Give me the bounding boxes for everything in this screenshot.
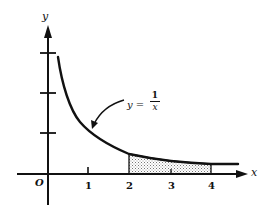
- x-axis-label: x: [251, 167, 257, 178]
- hyperbola-diagram: y x O 1 2 3 4 y = 1 x: [0, 0, 268, 214]
- x-tick-label-1: 1: [85, 181, 92, 191]
- x-tick-label-2: 2: [126, 181, 133, 191]
- y-axis-label: y: [42, 11, 48, 22]
- fraction-denominator: x: [150, 102, 160, 112]
- origin-label: O: [35, 178, 44, 188]
- label-pointer-arrowhead: [91, 120, 98, 129]
- x-tick-label-3: 3: [168, 181, 175, 191]
- fraction-numerator: 1: [150, 91, 160, 102]
- curve-y-equals-1-over-x: [58, 57, 238, 164]
- curve-equation-lhs: y =: [127, 100, 144, 110]
- y-axis-arrowhead: [44, 25, 52, 38]
- label-pointer-arrow: [94, 100, 124, 124]
- curve-equation-fraction: 1 x: [150, 91, 160, 112]
- x-tick-label-4: 4: [208, 181, 215, 191]
- x-axis-arrowhead: [236, 170, 248, 178]
